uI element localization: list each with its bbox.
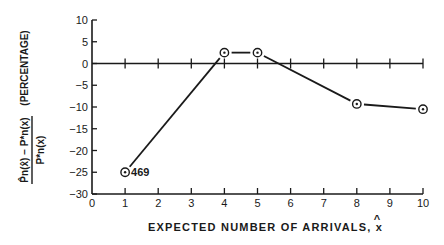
x-tick-label: 8 [354,197,360,209]
y-tick-label: −25 [69,166,88,178]
x-tick-label: 2 [155,197,161,209]
data-point-dot [124,171,126,173]
y-tick-label: −20 [69,145,88,157]
y-tick-label: 5 [82,36,88,48]
y-axis-title: P̂n(x̂) − P*n(x)P*n(x)(PERCENTAGE) [18,30,46,184]
x-tick-label: 3 [188,197,194,209]
x-tick-label: 4 [221,197,227,209]
x-tick-label: 10 [417,197,429,209]
x-tick-label: 1 [122,197,128,209]
x-tick-label: 5 [254,197,260,209]
x-tick-label: 7 [321,197,327,209]
x-axis-title: EXPECTED NUMBER OF ARRIVALS, x [148,221,383,233]
y-label-unit: (PERCENTAGE) [19,30,30,105]
y-label-denominator: P*n(x) [35,136,46,165]
y-tick-label: −10 [69,101,88,113]
x-tick-label: 6 [288,197,294,209]
x-tick-label: 0 [89,197,95,209]
series-line-segment [264,56,351,101]
data-point-dot [223,51,225,53]
point-annotation: 469 [131,166,149,178]
y-tick-label: −5 [75,79,88,91]
y-tick-label: 10 [76,14,88,26]
line-chart: 1050−5−10−15−20−25−30012345678910469EXPE… [0,0,444,245]
y-tick-label: 0 [82,58,88,70]
data-point-dot [256,51,258,53]
y-label-numerator: P̂n(x̂) − P*n(x) [18,117,30,182]
y-tick-label: −15 [69,123,88,135]
series-line-segment [364,105,416,109]
series-line-segment [130,58,220,167]
hat-accent: ^ [374,213,382,225]
y-tick-label: −30 [69,188,88,200]
x-tick-label: 9 [387,197,393,209]
data-point-dot [356,103,358,105]
data-point-dot [422,108,424,110]
